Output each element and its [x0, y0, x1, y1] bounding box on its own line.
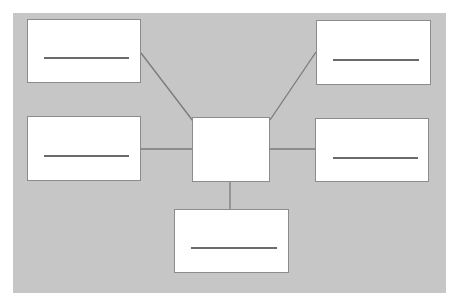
placeholder-text-line — [44, 57, 129, 59]
node-top-right[interactable] — [316, 20, 431, 85]
node-middle-right[interactable] — [315, 118, 429, 182]
placeholder-text-line — [333, 59, 419, 61]
placeholder-text-line — [191, 247, 277, 249]
node-top-left[interactable] — [27, 19, 141, 83]
center-node[interactable] — [192, 117, 270, 182]
node-middle-left[interactable] — [27, 116, 141, 181]
placeholder-text-line — [333, 157, 418, 159]
diagram-canvas — [0, 0, 461, 302]
node-bottom[interactable] — [174, 209, 289, 273]
placeholder-text-line — [44, 155, 129, 157]
